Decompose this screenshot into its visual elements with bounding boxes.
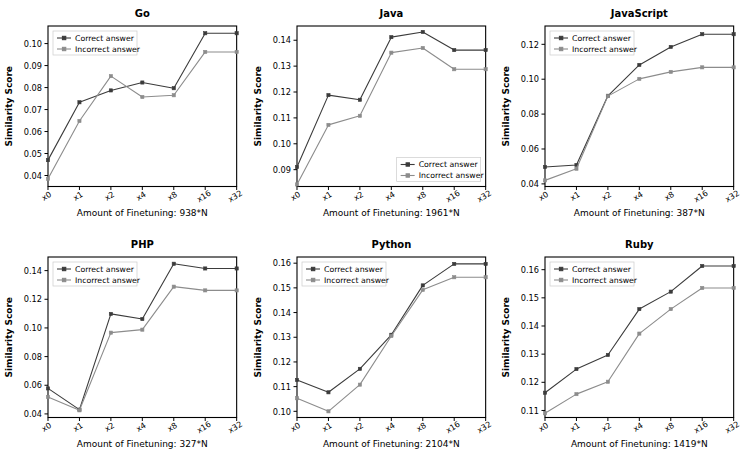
y-axis-tick-label: 0.04 bbox=[24, 171, 42, 181]
data-point-marker bbox=[46, 395, 49, 398]
chart-svg: Ruby0.110.120.130.140.150.16x0x1x2x4x8x1… bbox=[497, 231, 746, 461]
y-axis-tick-label: 0.12 bbox=[521, 40, 539, 50]
legend-label-correct: Correct answer bbox=[75, 265, 135, 274]
data-point-marker bbox=[358, 367, 361, 370]
figure-grid: Go0.040.050.060.070.080.090.10x0x1x2x4x8… bbox=[0, 0, 746, 461]
x-axis-label: Amount of Finetuning: 327*N bbox=[77, 439, 208, 449]
data-point-marker bbox=[607, 353, 610, 356]
data-point-marker bbox=[389, 36, 392, 39]
x-axis-tick-label: x8 bbox=[166, 190, 179, 203]
y-axis-tick-label: 0.05 bbox=[24, 149, 42, 159]
x-axis-tick-label: x32 bbox=[724, 189, 741, 205]
data-point-marker bbox=[295, 378, 298, 381]
chart-panel-java: Java0.090.100.110.120.130.14x0x1x2x4x8x1… bbox=[249, 0, 498, 231]
data-point-marker bbox=[204, 32, 207, 35]
data-point-marker bbox=[326, 409, 329, 412]
data-point-marker bbox=[172, 94, 175, 97]
x-axis-tick-label: x32 bbox=[724, 419, 741, 435]
legend-marker bbox=[62, 267, 65, 270]
x-axis-tick-label: x1 bbox=[320, 190, 333, 203]
legend-marker bbox=[62, 36, 65, 39]
legend-marker bbox=[311, 267, 314, 270]
legend-label-incorrect: Incorrect answer bbox=[75, 276, 141, 285]
legend-marker bbox=[560, 47, 563, 50]
data-point-marker bbox=[484, 262, 487, 265]
data-point-marker bbox=[235, 266, 238, 269]
x-axis-tick-label: x0 bbox=[40, 190, 53, 203]
y-axis-tick-label: 0.13 bbox=[521, 349, 539, 359]
legend-label-incorrect: Incorrect answer bbox=[418, 171, 484, 180]
x-axis-label: Amount of Finetuning: 938*N bbox=[77, 208, 208, 218]
data-point-marker bbox=[452, 48, 455, 51]
x-axis-label: Amount of Finetuning: 387*N bbox=[574, 208, 705, 218]
y-axis-tick-label: 0.10 bbox=[521, 74, 539, 84]
y-axis-tick-label: 0.06 bbox=[24, 380, 42, 390]
legend-marker bbox=[62, 278, 65, 281]
data-point-marker bbox=[235, 32, 238, 35]
x-axis-tick-label: x2 bbox=[352, 190, 365, 203]
data-point-marker bbox=[575, 167, 578, 170]
legend-label-incorrect: Incorrect answer bbox=[572, 45, 638, 54]
legend-marker bbox=[560, 267, 563, 270]
data-point-marker bbox=[295, 183, 298, 186]
y-axis-tick-label: 0.16 bbox=[521, 264, 539, 274]
y-axis-tick-label: 0.12 bbox=[272, 87, 290, 97]
y-axis-tick-label: 0.13 bbox=[272, 61, 290, 71]
data-point-marker bbox=[326, 123, 329, 126]
data-point-marker bbox=[669, 70, 672, 73]
x-axis-tick-label: x0 bbox=[289, 190, 302, 203]
data-point-marker bbox=[78, 101, 81, 104]
legend-marker bbox=[560, 278, 563, 281]
data-point-marker bbox=[544, 391, 547, 394]
data-point-marker bbox=[141, 328, 144, 331]
y-axis-tick-label: 0.09 bbox=[24, 61, 42, 71]
data-point-marker bbox=[141, 95, 144, 98]
chart-title: Go bbox=[135, 8, 150, 19]
x-axis-tick-label: x1 bbox=[569, 420, 582, 433]
data-point-marker bbox=[544, 179, 547, 182]
legend-marker bbox=[560, 36, 563, 39]
chart-svg: Java0.090.100.110.120.130.14x0x1x2x4x8x1… bbox=[249, 0, 498, 231]
data-point-marker bbox=[732, 286, 735, 289]
x-axis-tick-label: x2 bbox=[103, 420, 116, 433]
data-point-marker bbox=[732, 66, 735, 69]
data-point-marker bbox=[78, 119, 81, 122]
y-axis-tick-label: 0.11 bbox=[272, 381, 290, 391]
y-axis-tick-label: 0.14 bbox=[272, 35, 290, 45]
data-point-marker bbox=[638, 63, 641, 66]
y-axis-tick-label: 0.10 bbox=[272, 139, 290, 149]
legend-label-incorrect: Incorrect answer bbox=[572, 276, 638, 285]
data-point-marker bbox=[638, 77, 641, 80]
data-point-marker bbox=[452, 262, 455, 265]
legend-label-correct: Correct answer bbox=[572, 265, 632, 274]
data-point-marker bbox=[172, 262, 175, 265]
x-axis-tick-label: x32 bbox=[227, 419, 244, 435]
y-axis-tick-label: 0.14 bbox=[272, 307, 290, 317]
x-axis-tick-label: x16 bbox=[195, 189, 212, 205]
legend-label-correct: Correct answer bbox=[324, 265, 384, 274]
chart-panel-php: PHP0.040.060.080.100.120.14x0x1x2x4x8x16… bbox=[0, 231, 249, 461]
data-point-marker bbox=[46, 386, 49, 389]
chart-panel-go: Go0.040.050.060.070.080.090.10x0x1x2x4x8… bbox=[0, 0, 249, 231]
data-point-marker bbox=[389, 51, 392, 54]
x-axis-tick-label: x16 bbox=[444, 419, 461, 435]
chart-svg: Go0.040.050.060.070.080.090.10x0x1x2x4x8… bbox=[0, 0, 249, 231]
y-axis-tick-label: 0.12 bbox=[24, 294, 42, 304]
y-axis-tick-label: 0.08 bbox=[24, 351, 42, 361]
data-point-marker bbox=[607, 95, 610, 98]
data-point-marker bbox=[421, 283, 424, 286]
legend-label-incorrect: Incorrect answer bbox=[324, 276, 390, 285]
series-line-incorrect bbox=[48, 52, 237, 179]
data-point-marker bbox=[421, 288, 424, 291]
chart-panel-javascript: JavaScript0.040.060.080.100.12x0x1x2x4x8… bbox=[497, 0, 746, 231]
data-point-marker bbox=[109, 75, 112, 78]
data-point-marker bbox=[109, 331, 112, 334]
y-axis-label: Similarity Score bbox=[253, 297, 263, 377]
data-point-marker bbox=[701, 264, 704, 267]
x-axis-tick-label: x1 bbox=[72, 190, 85, 203]
chart-panel-python: Python0.100.110.120.130.140.150.16x0x1x2… bbox=[249, 231, 498, 461]
chart-svg: PHP0.040.060.080.100.120.14x0x1x2x4x8x16… bbox=[0, 231, 249, 461]
y-axis-tick-label: 0.10 bbox=[24, 323, 42, 333]
x-axis-tick-label: x1 bbox=[569, 190, 582, 203]
data-point-marker bbox=[172, 285, 175, 288]
